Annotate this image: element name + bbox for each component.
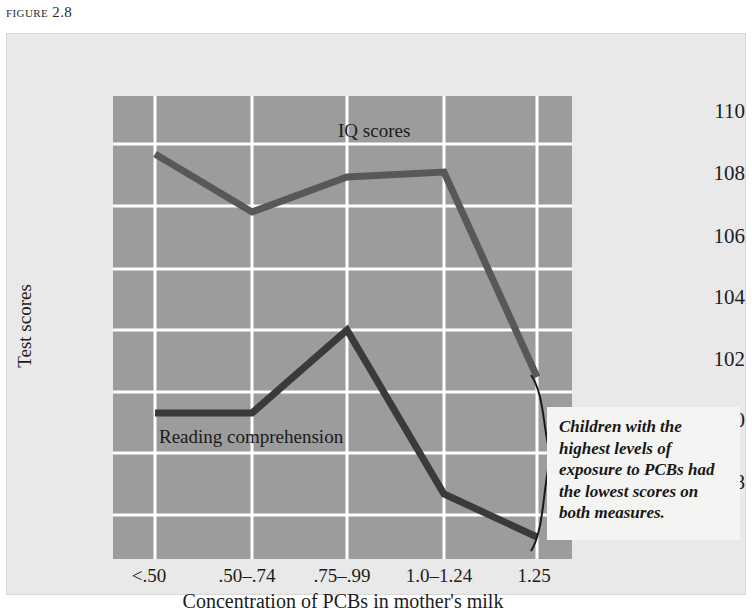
y-tick-102: 102 [685,347,745,372]
x-tick-2: .75–.99 [314,565,371,587]
x-tick-0: <.50 [132,565,166,587]
y-axis-title: Test scores [14,284,36,368]
y-tick-106: 106 [685,224,745,249]
y-tick-110: 110 [685,99,745,124]
callout-box: Children with the highest levels of expo… [547,407,740,540]
figure-panel: Test scores 110 108 106 104 102 100 98 <… [6,33,746,595]
x-tick-1: .50–.74 [219,565,276,587]
callout-text: Children with the highest levels of expo… [559,416,730,524]
y-tick-108: 108 [685,161,745,186]
chart-svg [113,96,572,559]
series-label-iq: IQ scores [338,120,410,142]
x-axis-title: Concentration of PCBs in mother's milk [183,590,504,612]
plot-area: IQ scores Reading comprehension [113,96,572,559]
series-label-reading: Reading comprehension [159,426,343,448]
x-tick-3: 1.0–1.24 [406,565,473,587]
figure-label: Figure 2.8 [6,4,72,21]
y-tick-104: 104 [685,285,745,310]
x-tick-4: 1.25 [517,565,550,587]
